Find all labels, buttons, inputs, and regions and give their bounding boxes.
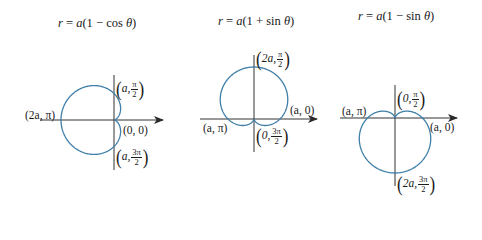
label-text: (2a, π) xyxy=(25,110,55,122)
label-coord: 0, xyxy=(403,93,412,105)
denominator: 2 xyxy=(277,60,283,69)
point-label-a-pi: (a, π) xyxy=(203,123,227,135)
point-label-0-3pi-over-2: (0, 3π2) xyxy=(256,127,289,145)
denominator: 2 xyxy=(131,90,137,99)
denominator: 2 xyxy=(412,100,418,109)
point-label-a-0: (a, 0) xyxy=(430,122,454,134)
label-coord: a, xyxy=(122,151,131,163)
fraction: 3π2 xyxy=(418,175,429,193)
label-text: (a, π) xyxy=(342,106,366,118)
point-label-2a-pi-over-2: (2a, π2) xyxy=(256,50,290,68)
label-text: (0, 0) xyxy=(123,125,148,137)
denominator: 2 xyxy=(273,137,279,146)
fraction: π2 xyxy=(131,80,137,98)
label-text: (a, 0) xyxy=(430,122,454,134)
fraction: 3π2 xyxy=(271,127,282,145)
point-label-origin: (0, 0) xyxy=(123,125,148,137)
point-label-2a-3pi-over-2: (2a, 3π2) xyxy=(397,175,435,193)
fraction: π2 xyxy=(277,50,283,68)
label-text: (a, 0) xyxy=(290,105,314,117)
denominator: 2 xyxy=(133,158,139,167)
label-coord: 0, xyxy=(262,130,271,142)
fraction: π2 xyxy=(412,90,418,108)
point-label-a-3pi-over-2: (a, 3π2) xyxy=(116,148,149,166)
point-label-a-pi-over-2: (a, π2) xyxy=(116,80,144,98)
label-coord: 2a, xyxy=(403,178,417,190)
label-text: (a, π) xyxy=(203,123,227,135)
point-label-a-0: (a, 0) xyxy=(290,105,314,117)
label-coord: 2a, xyxy=(262,53,276,65)
label-coord: a, xyxy=(122,83,131,95)
denominator: 2 xyxy=(420,185,426,194)
point-label-0-pi-over-2: (0, π2) xyxy=(397,90,425,108)
fraction: 3π2 xyxy=(131,148,142,166)
point-label-2a-pi: (2a, π) xyxy=(25,110,55,122)
point-label-a-pi: (a, π) xyxy=(342,106,366,118)
